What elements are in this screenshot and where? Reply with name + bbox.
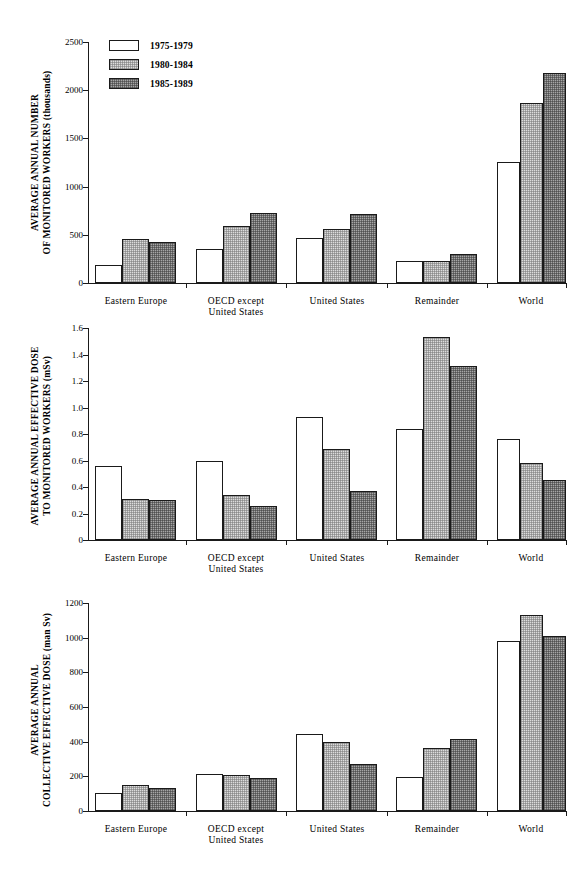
bar-1-group-3 (296, 734, 323, 811)
bar-1-group-1 (95, 793, 122, 811)
y-axis-tick (83, 90, 88, 91)
bar-1-group-4 (396, 429, 423, 540)
y-axis-tick (83, 672, 88, 673)
x-axis-group-separator (286, 283, 287, 288)
x-axis-group-separator (566, 811, 567, 816)
x-axis-category-label: Remainder (415, 824, 459, 835)
bar-3-group-5 (543, 636, 566, 811)
y-axis-tick-label: 0.4 (43, 482, 83, 492)
y-axis-tick (83, 603, 88, 604)
bar-2-group-1 (122, 785, 149, 811)
x-axis-category-label: World (518, 824, 543, 835)
x-axis-group-separator (487, 283, 488, 288)
bar-2-group-5 (520, 103, 543, 283)
y-axis-tick-label: 2500 (43, 37, 83, 47)
legend-item: 1985-1989 (109, 76, 193, 91)
x-axis-group-separator (387, 540, 388, 545)
y-axis-tick-label: 1.0 (43, 403, 83, 413)
bar-1-group-5 (497, 641, 520, 811)
x-axis-group-separator (387, 283, 388, 288)
bar-1-group-1 (95, 265, 122, 283)
y-axis-tick-label: 1.4 (43, 350, 83, 360)
y-axis-tick (83, 742, 88, 743)
y-axis-tick-label: 400 (43, 737, 83, 747)
y-axis-title: AVERAGE ANNUAL NUMBEROF MONITORED WORKER… (30, 42, 53, 283)
y-axis-line (88, 42, 89, 283)
y-axis-tick (83, 514, 88, 515)
bar-1-group-2 (196, 774, 223, 811)
y-axis-tick-label: 0.2 (43, 509, 83, 519)
y-axis-tick-label: 800 (43, 667, 83, 677)
chart-panel-effective-dose: AVERAGE ANNUAL EFFECTIVE DOSETO MONITORE… (0, 306, 576, 556)
y-axis-tick-label: 0 (43, 278, 83, 288)
y-axis-tick-label: 2000 (43, 85, 83, 95)
x-axis-line (88, 540, 566, 541)
y-axis-tick-label: 0.8 (43, 429, 83, 439)
x-axis-group-separator (186, 540, 187, 545)
y-axis-tick (83, 776, 88, 777)
bar-3-group-4 (450, 254, 477, 283)
chart-panel-collective-dose: AVERAGE ANNUALCOLLECTIVE EFFECTIVE DOSE … (0, 548, 576, 889)
bar-1-group-4 (396, 777, 423, 811)
legend-swatch-2 (109, 59, 139, 70)
y-axis-tick (83, 540, 88, 541)
bar-3-group-3 (350, 214, 377, 283)
x-axis-group-separator (566, 283, 567, 288)
legend-item: 1980-1984 (109, 57, 193, 72)
bar-2-group-2 (223, 226, 250, 283)
bar-1-group-3 (296, 238, 323, 283)
y-axis-tick-label: 200 (43, 771, 83, 781)
figure-page: AVERAGE ANNUAL NUMBEROF MONITORED WORKER… (0, 0, 576, 889)
x-axis-group-separator (186, 283, 187, 288)
x-axis-line (88, 811, 566, 812)
bar-1-group-2 (196, 249, 223, 283)
y-axis-tick-label: 500 (43, 230, 83, 240)
legend-label-1: 1975-1979 (150, 41, 193, 51)
bar-3-group-2 (250, 213, 277, 283)
y-axis-tick (83, 811, 88, 812)
x-axis-group-separator (566, 540, 567, 545)
legend-swatch-3 (109, 78, 139, 89)
y-axis-tick (83, 487, 88, 488)
y-axis-tick (83, 235, 88, 236)
y-axis-tick-label: 1000 (43, 633, 83, 643)
y-axis-tick-label: 0 (43, 806, 83, 816)
x-axis-group-separator (286, 540, 287, 545)
bar-3-group-4 (450, 739, 477, 811)
y-axis-tick-label: 1.6 (43, 323, 83, 333)
chart-legend: 1975-19791980-19841985-1989 (109, 38, 193, 95)
bar-2-group-5 (520, 463, 543, 540)
y-axis-tick (83, 283, 88, 284)
y-axis-tick-label: 1.2 (43, 376, 83, 386)
y-axis-tick-label: 1200 (43, 598, 83, 608)
bar-2-group-3 (323, 449, 350, 540)
bar-2-group-4 (423, 337, 450, 540)
x-axis-line (88, 283, 566, 284)
y-axis-tick (83, 187, 88, 188)
bar-2-group-1 (122, 499, 149, 540)
y-axis-tick (83, 707, 88, 708)
y-axis-tick (83, 434, 88, 435)
bar-1-group-5 (497, 162, 520, 283)
bar-3-group-1 (149, 242, 176, 283)
y-axis-line (88, 328, 89, 540)
bar-3-group-2 (250, 778, 277, 811)
y-axis-tick-label: 0.6 (43, 456, 83, 466)
x-axis-group-separator (286, 811, 287, 816)
bar-1-group-5 (497, 439, 520, 540)
bar-1-group-1 (95, 466, 122, 540)
bar-2-group-4 (423, 261, 450, 283)
bar-2-group-3 (323, 229, 350, 283)
bar-2-group-1 (122, 239, 149, 283)
x-axis-category-label: Eastern Europe (105, 824, 168, 835)
bar-2-group-2 (223, 775, 250, 811)
y-axis-tick (83, 408, 88, 409)
legend-label-2: 1980-1984 (150, 60, 193, 70)
y-axis-tick (83, 355, 88, 356)
bar-2-group-4 (423, 748, 450, 811)
x-axis-category-label: OECD exceptUnited States (208, 824, 264, 846)
bar-3-group-2 (250, 506, 277, 540)
bar-2-group-3 (323, 742, 350, 811)
bar-1-group-2 (196, 461, 223, 540)
legend-label-3: 1985-1989 (150, 79, 193, 89)
